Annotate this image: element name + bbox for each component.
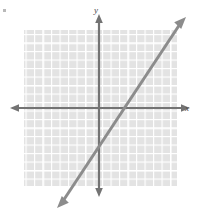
corner-artifact-mark <box>3 9 6 12</box>
y-axis-label: y <box>94 6 98 15</box>
x-axis-arrow-left-icon <box>10 104 19 112</box>
x-axis-label: x <box>185 104 189 113</box>
coordinate-plane-canvas <box>0 0 198 213</box>
plotted-line-arrow-upper-icon <box>174 17 186 29</box>
y-axis-arrow-up-icon <box>95 14 103 23</box>
graph-figure: y x <box>0 0 198 213</box>
plotted-line-arrow-lower-icon <box>57 196 69 208</box>
y-axis-arrow-down-icon <box>95 188 103 197</box>
